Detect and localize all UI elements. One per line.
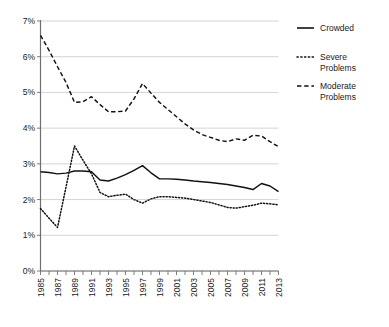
- line-chart: 7%6%5%4%3%2%1%0% 19851987198919911993199…: [0, 0, 389, 327]
- x-tick-label: 1999: [155, 278, 165, 297]
- y-tick-label: 2%: [23, 195, 36, 205]
- legend-label-moderate-problems-line2: Problems: [320, 92, 356, 102]
- x-axis-tick-labels: 1985198719891991199319951997199920012003…: [36, 271, 284, 297]
- y-tick-label: 0%: [23, 266, 36, 276]
- y-axis-tick-labels: 7%6%5%4%3%2%1%0%: [23, 16, 41, 276]
- y-tick-label: 1%: [23, 230, 36, 240]
- x-tick-label: 1995: [121, 278, 131, 297]
- legend-label-moderate-problems: Moderate: [320, 81, 356, 91]
- y-tick-label: 5%: [23, 87, 36, 97]
- legend-label-severe-problems: Severe: [320, 52, 347, 62]
- x-tick-label: 1989: [70, 278, 80, 297]
- x-tick-label: 2013: [274, 278, 284, 297]
- x-tick-label: 1985: [36, 278, 46, 297]
- x-tick-label: 2001: [172, 278, 182, 297]
- x-tick-label: 2011: [257, 278, 267, 297]
- legend-label-severe-problems-line2: Problems: [320, 63, 356, 73]
- chart-container: 7%6%5%4%3%2%1%0% 19851987198919911993199…: [0, 0, 389, 327]
- data-series: [41, 35, 279, 227]
- x-tick-label: 1987: [53, 278, 63, 297]
- x-tick-label: 2009: [240, 278, 250, 297]
- x-tick-label: 1997: [138, 278, 148, 297]
- y-tick-label: 4%: [23, 123, 36, 133]
- y-tick-label: 6%: [23, 52, 36, 62]
- x-tick-label: 1993: [104, 278, 114, 297]
- series-line-moderate-problems: [41, 35, 279, 146]
- gridlines: [41, 21, 279, 271]
- x-tick-label: 2005: [206, 278, 216, 297]
- x-tick-label: 1991: [87, 278, 97, 297]
- axes: [41, 20, 279, 271]
- series-line-crowded: [41, 166, 279, 192]
- chart-legend: CrowdedSevereProblemsModerateProblems: [297, 23, 356, 102]
- x-tick-label: 2007: [223, 278, 233, 297]
- y-tick-label: 3%: [23, 159, 36, 169]
- x-tick-label: 2003: [189, 278, 199, 297]
- y-tick-label: 7%: [23, 16, 36, 26]
- legend-label-crowded: Crowded: [320, 23, 354, 33]
